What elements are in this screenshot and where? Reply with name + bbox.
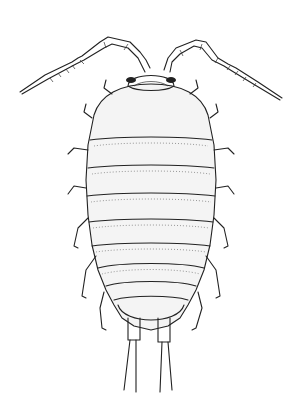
right-eye [166, 77, 176, 83]
left-eye [126, 77, 136, 83]
body [86, 76, 216, 331]
isopod-illustration [0, 0, 302, 413]
isopod-drawing [0, 0, 302, 413]
